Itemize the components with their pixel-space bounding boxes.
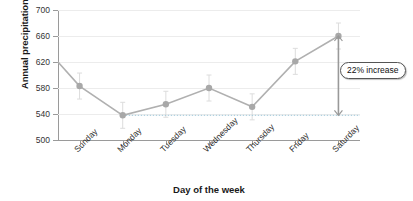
data-point bbox=[249, 104, 255, 110]
annotation-callout: 22% increase bbox=[340, 62, 406, 79]
series-layer bbox=[0, 0, 413, 201]
error-bars bbox=[77, 23, 341, 128]
data-point bbox=[76, 83, 82, 89]
data-point bbox=[206, 85, 212, 91]
data-point bbox=[163, 101, 169, 107]
data-point bbox=[120, 112, 126, 118]
data-point bbox=[292, 58, 298, 64]
chart-container: Annual precipitation (mm) Day of the wee… bbox=[0, 0, 413, 201]
